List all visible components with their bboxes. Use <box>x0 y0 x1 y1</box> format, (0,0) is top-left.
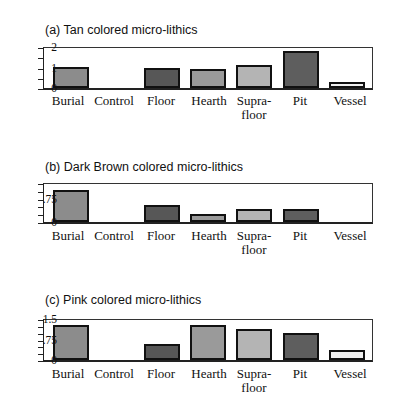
plot-area <box>43 183 373 224</box>
bar-floor <box>144 344 180 360</box>
bar-burial <box>53 325 89 360</box>
bar-pit <box>283 333 319 360</box>
y-tick <box>38 79 44 80</box>
y-tick <box>38 89 44 90</box>
bar-hearth <box>190 325 226 360</box>
y-tick <box>38 58 44 59</box>
plot-area <box>43 319 373 362</box>
x-category-label: Hearth <box>191 367 226 381</box>
y-tick <box>38 347 44 348</box>
x-category-label: Pit <box>293 94 307 108</box>
bar-supra-floor <box>236 329 272 360</box>
bar-floor <box>144 205 180 222</box>
x-category-label: Control <box>94 367 134 381</box>
bar-floor <box>144 68 180 88</box>
x-category-label: Hearth <box>191 94 226 108</box>
y-tick <box>38 223 44 224</box>
x-category-label: Supra- floor <box>237 367 272 395</box>
bar-hearth <box>190 69 226 88</box>
x-category-label: Vessel <box>333 94 366 108</box>
y-tick-label: 0 <box>51 354 57 366</box>
bar-pit <box>283 209 319 222</box>
bar-burial <box>53 67 89 89</box>
x-category-label: Supra- floor <box>237 229 272 257</box>
x-category-label: Hearth <box>191 229 226 243</box>
y-tick-label: 2 <box>51 41 57 53</box>
x-category-label: Floor <box>147 94 175 108</box>
x-category-label: Pit <box>293 229 307 243</box>
bar-supra-floor <box>236 65 272 88</box>
y-tick-label: .75 <box>43 334 57 346</box>
y-tick-label: 1 <box>51 62 57 74</box>
y-tick <box>38 215 44 216</box>
chart-title: (b) Dark Brown colored micro-lithics <box>45 160 243 174</box>
x-category-label: Control <box>94 229 134 243</box>
y-tick <box>38 361 44 362</box>
bar-pit <box>283 51 319 88</box>
x-category-label: Vessel <box>333 367 366 381</box>
chart-title: (c) Pink colored micro-lithics <box>45 293 201 307</box>
y-tick-label: 0 <box>51 216 57 228</box>
x-category-label: Burial <box>52 94 85 108</box>
bar-burial <box>53 190 89 222</box>
bar-vessel <box>329 82 365 88</box>
y-tick-label: .75 <box>43 193 57 205</box>
y-tick <box>38 354 44 355</box>
bar-vessel <box>329 350 365 360</box>
x-category-label: Burial <box>52 229 85 243</box>
x-category-label: Supra- floor <box>237 94 272 122</box>
x-category-label: Floor <box>147 229 175 243</box>
y-tick <box>38 69 44 70</box>
y-tick <box>38 184 44 185</box>
bar-supra-floor <box>236 209 272 222</box>
y-tick <box>38 48 44 49</box>
x-category-label: Control <box>94 94 134 108</box>
y-tick-label: 1.5 <box>43 313 57 325</box>
chart-title: (a) Tan colored micro-lithics <box>45 23 198 37</box>
y-tick <box>38 327 44 328</box>
plot-area <box>43 47 373 90</box>
x-category-label: Vessel <box>333 229 366 243</box>
bar-hearth <box>190 214 226 222</box>
x-category-label: Pit <box>293 367 307 381</box>
x-category-label: Burial <box>52 367 85 381</box>
x-category-label: Floor <box>147 367 175 381</box>
y-tick <box>38 207 44 208</box>
